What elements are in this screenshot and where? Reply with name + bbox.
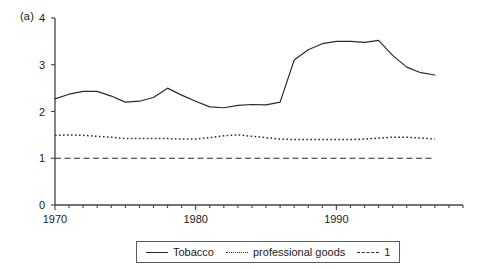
y-axis-tick-label: 2 xyxy=(29,106,45,118)
series-line-professional-goods xyxy=(55,135,435,140)
x-axis-ticks xyxy=(55,205,463,210)
data-series-group xyxy=(55,40,435,158)
x-axis-tick-label: 1990 xyxy=(316,213,356,225)
legend-swatch-dotted-icon xyxy=(226,249,248,256)
series-line-tobacco xyxy=(55,40,435,107)
y-axis-tick-label: 4 xyxy=(29,12,45,24)
y-axis-tick-label: 0 xyxy=(29,199,45,211)
legend-item-tobacco: Tobacco xyxy=(146,246,214,258)
x-axis-tick-label: 1980 xyxy=(176,213,216,225)
y-axis-tick-label: 3 xyxy=(29,59,45,71)
line-chart-plot xyxy=(0,0,486,269)
axes xyxy=(51,18,463,210)
y-axis-tick-label: 1 xyxy=(29,152,45,164)
legend-swatch-dashed-icon xyxy=(357,249,379,256)
legend-label-professional-goods: professional goods xyxy=(253,246,345,258)
legend-item-reference-one: 1 xyxy=(357,246,390,258)
x-axis-tick-label: 1970 xyxy=(35,213,75,225)
legend-swatch-solid-icon xyxy=(146,249,168,256)
chart-legend: Tobacco professional goods 1 xyxy=(136,241,400,263)
figure-panel-a: (a) 01234 197019801990 Tobacco professio… xyxy=(0,0,486,269)
legend-label-tobacco: Tobacco xyxy=(173,246,214,258)
legend-label-reference-one: 1 xyxy=(384,246,390,258)
legend-item-professional-goods: professional goods xyxy=(226,246,345,258)
